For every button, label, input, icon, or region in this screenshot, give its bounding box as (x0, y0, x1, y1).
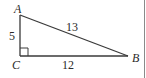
right-triangle-diagram: A C B 5 12 13 (0, 0, 146, 78)
side-label-ab: 13 (66, 20, 78, 34)
vertex-label-c: C (12, 58, 21, 72)
right-angle-marker (20, 48, 28, 56)
side-label-cb: 12 (62, 58, 74, 72)
side-label-ac: 5 (9, 29, 15, 43)
vertex-label-a: A (13, 2, 22, 16)
vertex-label-b: B (132, 51, 140, 65)
